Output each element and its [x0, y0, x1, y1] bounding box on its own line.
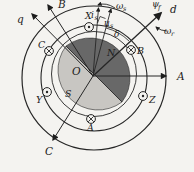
winding-symbol-c — [45, 47, 54, 56]
c-axis-label: C — [45, 145, 53, 157]
sync-speed-sub: s — [123, 5, 127, 13]
machine-diagram-canvas: A d q B C O N S X B C Y Z A i s u s δ ψ … — [0, 0, 194, 172]
winding-symbol-z — [139, 92, 148, 101]
winding-c-label: C — [38, 39, 46, 50]
b-axis-label: B — [57, 0, 66, 10]
winding-y-label: Y — [36, 94, 44, 105]
delta-angle-label: δ — [114, 29, 119, 39]
machine-cross-section-figure: A d q B C O N S X B C Y Z A i s u s δ ψ … — [0, 0, 194, 172]
center-o-label: O — [72, 65, 81, 77]
q-axis-label: q — [17, 13, 24, 25]
dot-icon — [46, 91, 48, 93]
dot-icon — [142, 95, 144, 97]
winding-b-label: B — [136, 45, 144, 56]
flux-psi-sub: f — [157, 4, 162, 12]
north-pole-label: N — [106, 47, 116, 58]
winding-z-label: Z — [148, 94, 156, 105]
south-pole-label: S — [65, 88, 72, 99]
d-axis-label: d — [170, 3, 177, 15]
winding-symbol-x — [85, 23, 94, 32]
winding-a-label: A — [86, 122, 94, 133]
a-axis-label: A — [176, 70, 185, 82]
winding-symbol-b — [127, 46, 136, 55]
dot-icon — [88, 26, 90, 28]
rotor-speed-sub: r — [171, 30, 175, 38]
winding-symbol-y — [43, 88, 52, 97]
